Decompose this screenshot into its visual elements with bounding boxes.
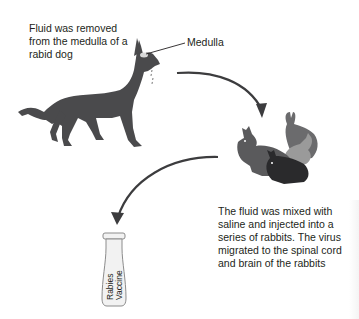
page-edge-shadow bbox=[349, 200, 359, 319]
medulla-callout-label: Medulla bbox=[187, 36, 224, 49]
arrow-rabbits-to-vaccine bbox=[111, 157, 218, 225]
rabbits-step-caption: The fluid was mixed with saline and inje… bbox=[218, 205, 358, 270]
medulla-highlight bbox=[140, 53, 148, 58]
vial-label-line2: Vaccine bbox=[114, 270, 124, 300]
arrow-dog-to-rabbits bbox=[177, 73, 267, 118]
rabbits-icon bbox=[237, 112, 317, 184]
medulla-leader-line bbox=[146, 43, 185, 54]
dog-step-caption: Fluid was removed from the medulla of a … bbox=[29, 22, 139, 61]
